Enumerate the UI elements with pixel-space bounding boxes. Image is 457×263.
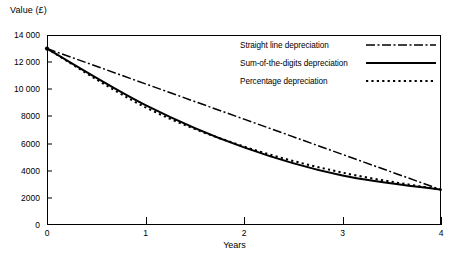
y-tick-label: 4000 bbox=[21, 166, 40, 176]
y-tick-mark bbox=[47, 89, 52, 90]
chart-legend: Straight line depreciation Sum-of-the-di… bbox=[240, 36, 436, 90]
y-tick-mark bbox=[47, 197, 52, 198]
y-tick-label: 10 000 bbox=[14, 84, 40, 94]
legend-sample-dash-dot-icon bbox=[366, 40, 436, 50]
legend-label-straight-line: Straight line depreciation bbox=[240, 41, 329, 50]
legend-item-straight-line: Straight line depreciation bbox=[240, 36, 436, 54]
depreciation-line-chart: Value (£) 14 00012 00010 000800060004000… bbox=[0, 0, 457, 263]
legend-sample-dotted-icon bbox=[366, 76, 436, 86]
x-tick-mark bbox=[244, 217, 245, 225]
legend-sample-solid-icon bbox=[366, 58, 436, 68]
legend-label-sum-of-digits: Sum-of-the-digits depreciation bbox=[240, 59, 348, 68]
y-tick-mark bbox=[47, 170, 52, 171]
y-tick-mark bbox=[47, 62, 52, 63]
y-tick-label: 6000 bbox=[21, 139, 40, 149]
x-tick-mark bbox=[441, 217, 442, 225]
y-axis-title: Value (£) bbox=[10, 5, 47, 15]
x-tick-label: 2 bbox=[242, 228, 247, 238]
x-tick-mark bbox=[47, 217, 48, 225]
y-tick-label: 0 bbox=[35, 220, 40, 230]
y-tick-label: 12 000 bbox=[14, 57, 40, 67]
x-tick-label: 3 bbox=[340, 228, 345, 238]
legend-item-sum-of-digits: Sum-of-the-digits depreciation bbox=[240, 54, 436, 72]
x-axis-title: Years bbox=[223, 240, 246, 250]
x-tick-mark bbox=[343, 217, 344, 225]
legend-item-percentage: Percentage depreciation bbox=[240, 72, 436, 90]
y-tick-mark bbox=[47, 116, 52, 117]
y-tick-mark bbox=[47, 143, 52, 144]
x-tick-label: 4 bbox=[439, 228, 444, 238]
legend-label-percentage: Percentage depreciation bbox=[240, 77, 328, 86]
y-tick-label: 8000 bbox=[21, 111, 40, 121]
y-tick-label: 14 000 bbox=[14, 30, 40, 40]
x-tick-label: 1 bbox=[143, 228, 148, 238]
x-tick-label: 0 bbox=[45, 228, 50, 238]
x-axis-title-wrap: Years bbox=[0, 240, 457, 250]
x-tick-mark bbox=[146, 217, 147, 225]
y-tick-label: 2000 bbox=[21, 193, 40, 203]
